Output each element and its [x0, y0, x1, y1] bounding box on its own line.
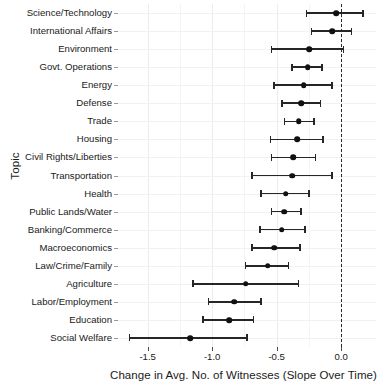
y-axis-tick-mark: [114, 320, 118, 321]
x-axis-tick-mark: [277, 347, 278, 351]
data-row: [118, 77, 376, 94]
error-bar-cap-low: [208, 298, 209, 305]
data-point: [231, 299, 237, 305]
data-point: [291, 155, 297, 161]
y-axis-tick-label: Govt. Operations: [0, 62, 112, 72]
error-bar-cap-high: [351, 28, 352, 35]
data-point: [296, 119, 302, 125]
x-axis-tick-label: 0.0: [334, 351, 347, 362]
y-axis-tick-mark: [114, 230, 118, 231]
data-point: [279, 227, 285, 233]
y-axis-tick-label: Transportation: [0, 171, 112, 181]
error-bar-cap-high: [321, 64, 322, 71]
y-axis-tick-label: Health: [0, 189, 112, 199]
error-bar-cap-high: [362, 10, 363, 17]
y-axis-tick-label: Trade: [0, 116, 112, 126]
data-point: [289, 173, 295, 179]
data-point: [243, 281, 249, 287]
y-axis-tick-label: Energy: [0, 80, 112, 90]
error-bar-cap-low: [273, 82, 274, 89]
x-axis-tick-mark: [148, 347, 149, 351]
error-bar-cap-high: [320, 100, 321, 107]
y-axis-tick-label: Agriculture: [0, 279, 112, 289]
data-row: [118, 239, 376, 256]
x-axis-tick-label: -1.0: [204, 351, 221, 362]
y-axis-tick-mark: [114, 67, 118, 68]
y-axis-tick-label: Banking/Commerce: [0, 225, 112, 235]
dot-whisker-chart: Topic Science/TechnologyInternational Af…: [0, 0, 381, 391]
y-axis-tick-label: Environment: [0, 44, 112, 54]
data-point: [226, 317, 232, 323]
y-axis-tick-label: Science/Technology: [0, 8, 112, 18]
error-bar-cap-high: [322, 136, 323, 143]
error-bar-cap-high: [253, 316, 254, 323]
data-point: [301, 82, 307, 88]
error-bar-cap-low: [291, 64, 292, 71]
y-axis-tick-mark: [114, 121, 118, 122]
data-point: [305, 64, 311, 70]
error-bar-cap-high: [331, 172, 332, 179]
y-axis-tick-label: Labor/Employment: [0, 297, 112, 307]
error-bar-cap-low: [311, 28, 312, 35]
data-point: [283, 191, 289, 197]
x-axis-tick-mark: [212, 347, 213, 351]
y-axis-tick-label: Defense: [0, 98, 112, 108]
y-axis-tick-mark: [114, 284, 118, 285]
y-axis-tick-mark: [114, 139, 118, 140]
error-bar-cap-high: [246, 334, 247, 341]
error-bar-cap-high: [315, 154, 316, 161]
error-bar-cap-high: [308, 190, 309, 197]
y-axis-tick-mark: [114, 13, 118, 14]
data-point: [282, 209, 288, 215]
y-axis-tick-label: Education: [0, 315, 112, 325]
data-point: [329, 28, 335, 34]
data-row: [118, 131, 376, 148]
error-bar-cap-low: [271, 154, 272, 161]
error-bar-cap-high: [298, 280, 299, 287]
error-bar-cap-low: [251, 172, 252, 179]
error-bar-cap-low: [129, 334, 130, 341]
x-axis-tick-label: -0.5: [268, 351, 285, 362]
y-axis-tick-mark: [114, 302, 118, 303]
error-bar-cap-high: [260, 298, 261, 305]
error-bar-cap-low: [284, 118, 285, 125]
data-row: [118, 95, 376, 112]
y-axis-tick-mark: [114, 176, 118, 177]
x-axis-tick-mark: [341, 347, 342, 351]
y-axis-tick-label: International Affairs: [0, 26, 112, 36]
error-bar-cap-high: [288, 262, 289, 269]
y-axis-tick-mark: [114, 212, 118, 213]
error-bar-cap-low: [271, 46, 272, 53]
data-row: [118, 149, 376, 166]
y-axis-tick-mark: [114, 194, 118, 195]
data-row: [118, 167, 376, 184]
y-axis-tick-label: Civil Rights/Liberties: [0, 152, 112, 162]
data-row: [118, 185, 376, 202]
data-row: [118, 221, 376, 238]
y-axis-tick-label: Macroeconomics: [0, 243, 112, 253]
y-axis-tick-mark: [114, 103, 118, 104]
data-row: [118, 203, 376, 220]
y-axis-tick-mark: [114, 31, 118, 32]
data-point: [298, 100, 304, 106]
y-axis-tick-label: Housing: [0, 134, 112, 144]
error-bar-cap-high: [299, 244, 300, 251]
error-bar-cap-low: [192, 280, 193, 287]
y-axis-tick-mark: [114, 266, 118, 267]
error-bar-cap-low: [270, 136, 271, 143]
error-bar-cap-low: [251, 244, 252, 251]
error-bar-cap-low: [259, 226, 260, 233]
error-bar-cap-low: [260, 190, 261, 197]
y-axis-tick-mark: [114, 157, 118, 158]
error-bar-cap-high: [343, 46, 344, 53]
error-bar-cap-low: [271, 208, 272, 215]
data-point: [333, 10, 339, 16]
y-axis-tick-mark: [114, 338, 118, 339]
data-row: [118, 59, 376, 76]
error-bar-cap-high: [304, 226, 305, 233]
y-axis-tick-mark: [114, 49, 118, 50]
error-bar-cap-low: [202, 316, 203, 323]
error-bar-cap-high: [300, 208, 301, 215]
data-point: [295, 137, 301, 143]
y-axis-tick-mark: [114, 85, 118, 86]
